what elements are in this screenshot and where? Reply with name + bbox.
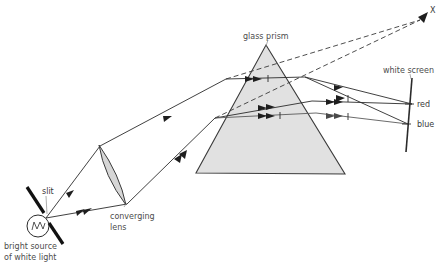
upper-incident-ray — [46, 146, 100, 218]
diagram-canvas: bright source of white light slit conver… — [0, 0, 443, 267]
lens-label-line2: lens — [110, 223, 126, 232]
red-label: red — [417, 100, 430, 109]
blue-label: blue — [417, 120, 434, 129]
glass-prism-shape — [196, 45, 345, 174]
arrowhead-lens-to-prism-upper — [163, 116, 172, 122]
arrowhead-exit-lower-red-1 — [326, 99, 335, 105]
arrowhead-exit-lower-blue-1 — [326, 113, 335, 119]
arrowhead-lower-incident-2 — [83, 208, 92, 215]
slit-label: slit — [42, 187, 54, 196]
red-ray-exit-upper — [305, 77, 412, 104]
source-label-line1: bright source — [4, 242, 57, 251]
slit-barrier-lower — [49, 223, 63, 244]
lamp-filament-icon — [32, 222, 45, 230]
blue-ray-exit-upper — [305, 77, 408, 124]
prism-label: glass prism — [243, 32, 289, 41]
optics-dispersion-diagram: bright source of white light slit conver… — [0, 0, 443, 267]
slit-label-pointer — [46, 196, 47, 214]
lower-ray-lens-to-prism — [127, 118, 215, 204]
screen-label: white screen — [383, 66, 434, 75]
virtual-point-x-marker — [418, 12, 428, 23]
arrowhead-upper-incident — [66, 190, 74, 198]
converging-lens-shape — [99, 145, 126, 205]
arrowhead-exit-lower-blue-2 — [334, 113, 343, 119]
lens-label-line1: converging — [110, 212, 155, 221]
source-label-line2: of white light — [4, 253, 56, 262]
white-screen-line — [406, 78, 412, 152]
virtual-point-x-label: X — [430, 6, 436, 15]
upper-ray-lens-to-prism — [100, 79, 226, 146]
